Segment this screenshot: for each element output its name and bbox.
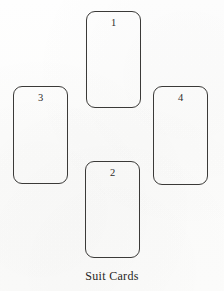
suit-cards-figure: 1 2 3 4 Suit Cards	[0, 0, 224, 291]
card-2-label: 2	[86, 167, 139, 178]
figure-caption: Suit Cards	[0, 269, 224, 284]
card-1-label: 1	[87, 17, 140, 28]
card-4: 4	[153, 86, 208, 185]
card-3: 3	[13, 86, 68, 184]
card-3-label: 3	[14, 92, 67, 103]
card-2: 2	[85, 161, 140, 258]
card-4-label: 4	[154, 92, 207, 103]
card-1: 1	[86, 11, 141, 108]
